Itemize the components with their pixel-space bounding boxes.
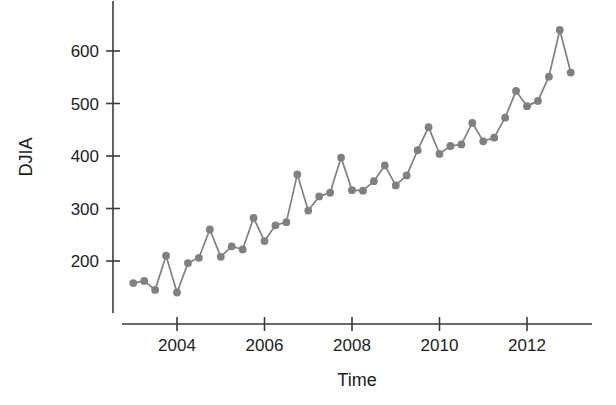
x-axis-tick-label: 2012 [508, 336, 546, 355]
data-point [348, 186, 356, 194]
data-point [414, 146, 422, 154]
data-point [184, 259, 192, 267]
data-point [162, 252, 170, 260]
data-point [195, 254, 203, 262]
x-axis-tick-label: 2006 [246, 336, 284, 355]
data-point [228, 242, 236, 250]
y-axis-tick-label: 500 [71, 95, 99, 114]
data-point [173, 289, 181, 297]
y-axis: 200300400500600 [71, 1, 120, 313]
y-axis-tick-label: 200 [71, 252, 99, 271]
data-point [425, 123, 433, 131]
y-axis-tick-label: 400 [71, 147, 99, 166]
data-point [359, 187, 367, 195]
data-point [272, 221, 280, 229]
data-point [239, 246, 247, 254]
y-axis-tick-label: 600 [71, 42, 99, 61]
data-point [556, 26, 564, 34]
data-point [436, 150, 444, 158]
data-point [151, 286, 159, 294]
data-point [282, 218, 290, 226]
data-point [512, 87, 520, 95]
data-point [304, 207, 312, 215]
data-point [447, 142, 455, 150]
data-point [326, 189, 334, 197]
data-point [490, 134, 498, 142]
y-axis-title: DJIA [16, 137, 36, 176]
data-point [370, 177, 378, 185]
data-point [534, 97, 542, 105]
data-point [381, 162, 389, 170]
data-point [206, 226, 214, 234]
data-point [217, 253, 225, 261]
data-point [250, 214, 258, 222]
data-point [567, 69, 575, 77]
series-line-djia [133, 30, 571, 293]
x-axis-tick-label: 2008 [333, 336, 371, 355]
data-point [501, 114, 509, 122]
data-point [545, 73, 553, 81]
x-axis-tick-label: 2010 [421, 336, 459, 355]
data-point [468, 119, 476, 127]
y-axis-tick-label: 300 [71, 200, 99, 219]
data-point [337, 154, 345, 162]
x-axis-tick-label: 2004 [158, 336, 196, 355]
data-point [261, 237, 269, 245]
data-point [315, 193, 323, 201]
data-point [457, 141, 465, 149]
data-point [523, 102, 531, 110]
x-axis-title: Time [337, 370, 376, 390]
data-series-djia [129, 26, 574, 296]
data-point [293, 170, 301, 178]
data-point [403, 172, 411, 180]
data-point [479, 137, 487, 145]
data-point [392, 182, 400, 190]
djia-time-series-chart: 200300400500600 20042006200820102012 Tim… [0, 0, 616, 405]
x-axis: 20042006200820102012 [122, 317, 592, 355]
data-point [140, 277, 148, 285]
data-point [129, 279, 137, 287]
chart-container: 200300400500600 20042006200820102012 Tim… [0, 0, 616, 405]
